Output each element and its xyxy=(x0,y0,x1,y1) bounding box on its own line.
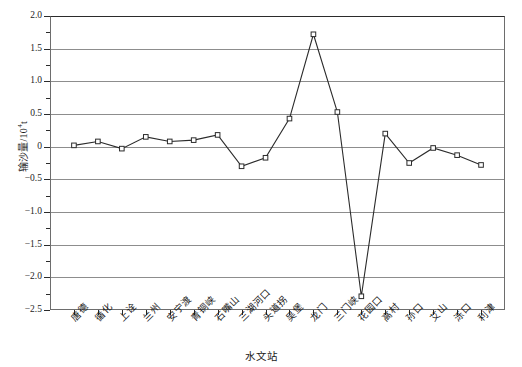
y-axis-minor-tick xyxy=(46,294,50,295)
y-axis-tick xyxy=(44,49,50,50)
y-axis-tick-label: −1.5 xyxy=(2,240,42,250)
y-axis-tick xyxy=(44,277,50,278)
y-axis-minor-tick xyxy=(46,261,50,262)
plot-area xyxy=(50,16,505,310)
y-axis-tick-label: 0.5 xyxy=(2,109,42,119)
gridline xyxy=(51,245,504,246)
y-axis-minor-tick xyxy=(46,130,50,131)
y-axis-title-unit: t xyxy=(18,121,29,124)
y-axis-tick xyxy=(44,245,50,246)
y-axis-minor-tick xyxy=(46,163,50,164)
y-axis-tick-label: −2.5 xyxy=(2,305,42,315)
y-axis-tick-label: 2.0 xyxy=(2,11,42,21)
y-axis-tick-label: −2.0 xyxy=(2,272,42,282)
y-axis-tick xyxy=(44,310,50,311)
gridline xyxy=(51,49,504,50)
y-axis-minor-tick xyxy=(46,65,50,66)
y-axis-tick xyxy=(44,114,50,115)
y-axis-tick-label: −1.0 xyxy=(2,207,42,217)
y-axis-tick xyxy=(44,16,50,17)
y-axis-minor-tick xyxy=(46,228,50,229)
y-axis-tick xyxy=(44,179,50,180)
y-axis-tick-label: −0.5 xyxy=(2,174,42,184)
y-axis-tick xyxy=(44,147,50,148)
y-axis-minor-tick xyxy=(46,32,50,33)
gridline xyxy=(51,179,504,180)
y-axis-tick xyxy=(44,212,50,213)
x-axis-title: 水文站 xyxy=(0,348,522,363)
gridline xyxy=(51,114,504,115)
y-axis-minor-tick xyxy=(46,98,50,99)
gridline xyxy=(51,277,504,278)
y-axis-tick-label: 1.5 xyxy=(2,44,42,54)
sediment-transport-line-chart: 输沙量/104t 2.01.51.00.50−0.5−1.0−1.5−2.0−2… xyxy=(0,0,522,367)
y-axis-tick xyxy=(44,81,50,82)
gridline xyxy=(51,81,504,82)
y-axis-minor-tick xyxy=(46,196,50,197)
gridline xyxy=(51,212,504,213)
y-axis-tick-label: 1.0 xyxy=(2,76,42,86)
y-axis-title-exponent: 4 xyxy=(16,124,24,128)
gridline xyxy=(51,147,504,148)
y-axis-tick-label: 0 xyxy=(2,142,42,152)
